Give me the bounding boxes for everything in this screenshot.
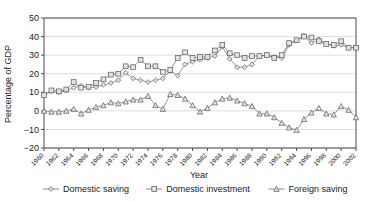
data-point-triangle-1992 xyxy=(279,120,284,125)
chart-figure: −20−1001020304050 1960196219641966196819… xyxy=(0,0,379,201)
data-point-square-1967 xyxy=(94,81,99,86)
data-point-square-1961 xyxy=(49,88,54,93)
legend-label: Domestic investment xyxy=(166,184,250,194)
data-point-square-1994 xyxy=(294,38,299,43)
x-tick-label-1996: 1996 xyxy=(297,151,312,166)
data-point-diamond-1979 xyxy=(183,62,188,67)
x-tick-label-1968: 1968 xyxy=(89,151,104,166)
data-point-triangle-1994 xyxy=(294,127,299,132)
x-tick-labels: 1960196219641966196819701972197419761978… xyxy=(30,151,357,166)
data-point-square-2002 xyxy=(354,45,359,50)
data-point-square-1970 xyxy=(116,71,121,76)
data-point-square-1969 xyxy=(108,72,113,77)
y-axis-title: Percentage of GDP xyxy=(3,45,13,123)
x-tick-label-1986: 1986 xyxy=(223,151,238,166)
data-point-triangle-1987 xyxy=(242,101,247,106)
data-point-square-1977 xyxy=(168,68,173,73)
x-tick-label-2002: 2002 xyxy=(342,151,357,166)
data-point-triangle-1968 xyxy=(101,103,106,108)
y-tick-label-30: 30 xyxy=(29,50,39,60)
data-point-diamond-1974 xyxy=(146,80,151,85)
legend-square-marker-icon xyxy=(152,187,157,192)
data-point-square-1992 xyxy=(279,53,284,58)
data-point-triangle-1993 xyxy=(286,125,291,130)
data-point-triangle-1976 xyxy=(160,106,165,111)
data-point-triangle-1983 xyxy=(212,100,217,105)
legend-label: Foreign saving xyxy=(289,184,348,194)
y-tick-label-0: 0 xyxy=(34,106,39,116)
data-point-square-1962 xyxy=(56,89,61,94)
y-tick-label--20: −20 xyxy=(24,143,39,153)
x-tick-label-1992: 1992 xyxy=(267,151,282,166)
legend-item-triangle[interactable]: Foreign saving xyxy=(269,184,348,194)
data-point-square-1998 xyxy=(324,42,329,47)
data-point-square-1986 xyxy=(235,53,240,58)
data-point-square-1988 xyxy=(250,54,255,59)
x-tick-label-1966: 1966 xyxy=(74,151,89,166)
y-tick-label-50: 50 xyxy=(29,13,39,23)
data-point-square-1984 xyxy=(220,43,225,48)
x-tick-label-1960: 1960 xyxy=(30,151,45,166)
data-point-square-2001 xyxy=(346,45,351,50)
data-point-square-1975 xyxy=(153,64,158,69)
data-point-triangle-1974 xyxy=(145,93,150,98)
data-point-square-1996 xyxy=(309,35,314,40)
legend-item-square[interactable]: Domestic investment xyxy=(146,184,250,194)
data-point-square-1993 xyxy=(287,41,292,46)
x-tick-label-1964: 1964 xyxy=(59,151,74,166)
data-point-square-1964 xyxy=(71,80,76,85)
data-point-triangle-1966 xyxy=(86,107,91,112)
chart-legend: Domestic savingDomestic investmentForeig… xyxy=(43,184,348,194)
data-point-square-1973 xyxy=(138,57,143,62)
x-tick-label-1972: 1972 xyxy=(119,151,134,166)
data-point-square-1972 xyxy=(131,65,136,70)
legend-item-diamond[interactable]: Domestic saving xyxy=(43,184,129,194)
data-point-square-1987 xyxy=(242,56,247,61)
data-point-triangle-2000 xyxy=(338,104,343,109)
y-tick-label--10: −10 xyxy=(24,125,39,135)
data-point-triangle-1965 xyxy=(78,111,83,116)
data-point-square-1965 xyxy=(79,85,84,90)
x-tick-label-2000: 2000 xyxy=(327,151,342,166)
x-tick-label-1988: 1988 xyxy=(238,151,253,166)
data-point-diamond-1973 xyxy=(138,78,143,83)
x-tick-label-1984: 1984 xyxy=(208,151,223,166)
data-point-square-1979 xyxy=(183,50,188,55)
x-tick-label-1998: 1998 xyxy=(312,151,327,166)
x-tick-label-1990: 1990 xyxy=(252,151,267,166)
data-point-diamond-1975 xyxy=(153,78,158,83)
data-point-diamond-1987 xyxy=(242,65,247,70)
data-point-square-1983 xyxy=(212,48,217,53)
data-point-triangle-1997 xyxy=(316,105,321,110)
data-point-square-1968 xyxy=(101,77,106,82)
y-tick-label-20: 20 xyxy=(29,69,39,79)
data-point-square-1976 xyxy=(160,69,165,74)
x-axis-title: Year xyxy=(190,170,208,180)
x-tick-label-1970: 1970 xyxy=(104,151,119,166)
legend-label: Domestic saving xyxy=(63,184,129,194)
data-point-triangle-1982 xyxy=(205,105,210,110)
data-point-square-1997 xyxy=(316,39,321,44)
data-point-square-1980 xyxy=(190,56,195,61)
x-tick-label-1994: 1994 xyxy=(282,151,297,166)
data-point-diamond-1968 xyxy=(101,82,106,87)
data-point-triangle-1969 xyxy=(108,100,113,105)
data-point-square-1989 xyxy=(257,54,262,59)
x-tick-label-1978: 1978 xyxy=(163,151,178,166)
data-point-triangle-1979 xyxy=(182,96,187,101)
x-tick-label-1980: 1980 xyxy=(178,151,193,166)
data-point-square-1982 xyxy=(205,55,210,60)
data-point-triangle-1964 xyxy=(71,106,76,111)
data-point-triangle-1988 xyxy=(249,104,254,109)
data-point-square-1999 xyxy=(331,43,336,48)
chart-svg: −20−1001020304050 1960196219641966196819… xyxy=(0,0,379,201)
data-point-triangle-1991 xyxy=(272,115,277,120)
x-tick-label-1962: 1962 xyxy=(44,151,59,166)
x-tick-label-1974: 1974 xyxy=(134,151,149,166)
data-point-diamond-1969 xyxy=(108,81,113,86)
series-foreign-saving xyxy=(41,91,358,132)
data-point-square-1966 xyxy=(86,84,91,89)
data-point-triangle-1985 xyxy=(227,95,232,100)
data-point-square-1963 xyxy=(64,87,69,92)
data-point-triangle-2001 xyxy=(346,107,351,112)
